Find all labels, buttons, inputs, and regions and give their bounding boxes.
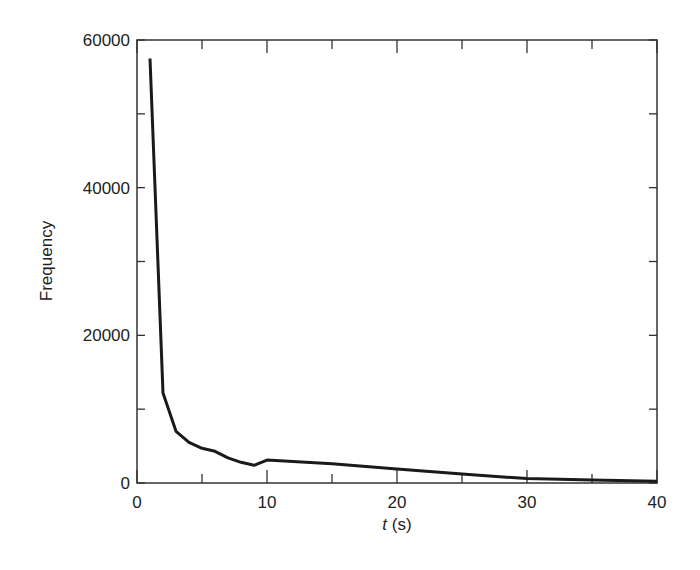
axis-ticks (137, 40, 657, 483)
y-tick-labels: 0200004000060000 (83, 31, 130, 493)
y-axis-label: Frequency (37, 220, 56, 301)
frequency-line-chart: 010203040 0200004000060000 t (s) Frequen… (0, 0, 700, 570)
x-axis-label: t (s) (382, 515, 411, 534)
x-tick-label: 30 (518, 493, 537, 512)
plot-frame (137, 40, 657, 483)
x-tick-label: 10 (258, 493, 277, 512)
x-tick-label: 20 (388, 493, 407, 512)
y-tick-label: 40000 (83, 179, 130, 198)
x-tick-label: 0 (132, 493, 141, 512)
data-line (150, 59, 657, 482)
y-tick-label: 60000 (83, 31, 130, 50)
x-tick-labels: 010203040 (132, 493, 666, 512)
x-tick-label: 40 (648, 493, 667, 512)
y-tick-label: 20000 (83, 326, 130, 345)
y-tick-label: 0 (121, 474, 130, 493)
